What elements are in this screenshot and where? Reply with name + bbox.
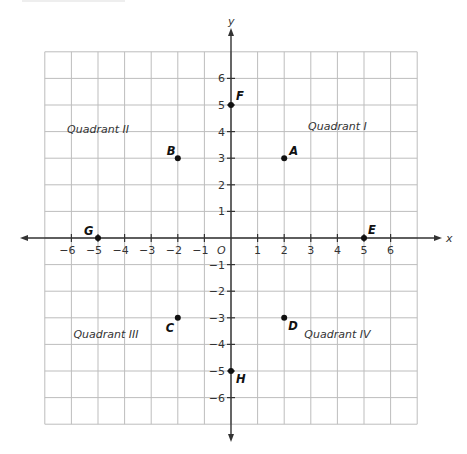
point-marker-icon [175, 315, 181, 321]
x-tick-label: 1 [254, 244, 261, 257]
y-tick-label: 3 [218, 152, 225, 165]
point-label: C [166, 321, 175, 335]
y-axis-label: y [227, 15, 235, 28]
x-tick-label: −5 [86, 244, 102, 257]
origin-label: O [217, 244, 226, 257]
x-tick-label: 2 [281, 244, 288, 257]
point-label: E [368, 223, 376, 237]
quadrant-label: Quadrant II [67, 123, 129, 136]
quadrant-label: Quadrant III [73, 328, 138, 341]
coordinate-plane: xyO −6−5−4−3−2−1123456−6−5−4−3−2−1123456… [0, 0, 467, 454]
x-tick-label: 4 [334, 244, 341, 257]
y-tick-label: −2 [209, 285, 225, 298]
arrow-left-icon [20, 235, 28, 241]
x-tick-label: 6 [387, 244, 394, 257]
point-marker-icon [281, 155, 287, 161]
x-axis-label: x [445, 232, 453, 245]
x-tick-label: −2 [166, 244, 182, 257]
arrow-up-icon [228, 28, 234, 36]
x-tick-label: −4 [112, 244, 128, 257]
x-tick-label: −6 [59, 244, 75, 257]
point-marker-icon [95, 235, 101, 241]
y-tick-label: −5 [209, 365, 225, 378]
point-marker-icon [281, 315, 287, 321]
x-tick-label: −3 [139, 244, 155, 257]
point-label: A [288, 144, 298, 158]
y-tick-label: 2 [218, 179, 225, 192]
point-label: F [236, 89, 244, 103]
point-marker-icon [175, 155, 181, 161]
x-tick-label: −1 [192, 244, 208, 257]
y-tick-label: −6 [209, 392, 225, 405]
y-tick-label: −1 [209, 259, 225, 272]
point-label: D [288, 319, 298, 333]
y-tick-label: −4 [209, 338, 225, 351]
point-label: B [167, 144, 176, 158]
point-label: H [236, 372, 246, 386]
arrow-down-icon [228, 434, 234, 442]
arrow-right-icon [434, 235, 442, 241]
y-tick-label: 5 [218, 99, 225, 112]
x-tick-label: 3 [307, 244, 314, 257]
quadrant-label: Quadrant IV [304, 328, 372, 341]
y-tick-label: 4 [218, 126, 225, 139]
quadrant-label: Quadrant I [308, 120, 367, 133]
point-label: G [84, 224, 93, 238]
point-marker-icon [361, 235, 367, 241]
y-tick-label: 6 [218, 72, 225, 85]
y-tick-label: −3 [209, 312, 225, 325]
point-marker-icon [228, 368, 234, 374]
x-tick-label: 5 [361, 244, 368, 257]
point-marker-icon [228, 102, 234, 108]
y-tick-label: 1 [218, 205, 225, 218]
